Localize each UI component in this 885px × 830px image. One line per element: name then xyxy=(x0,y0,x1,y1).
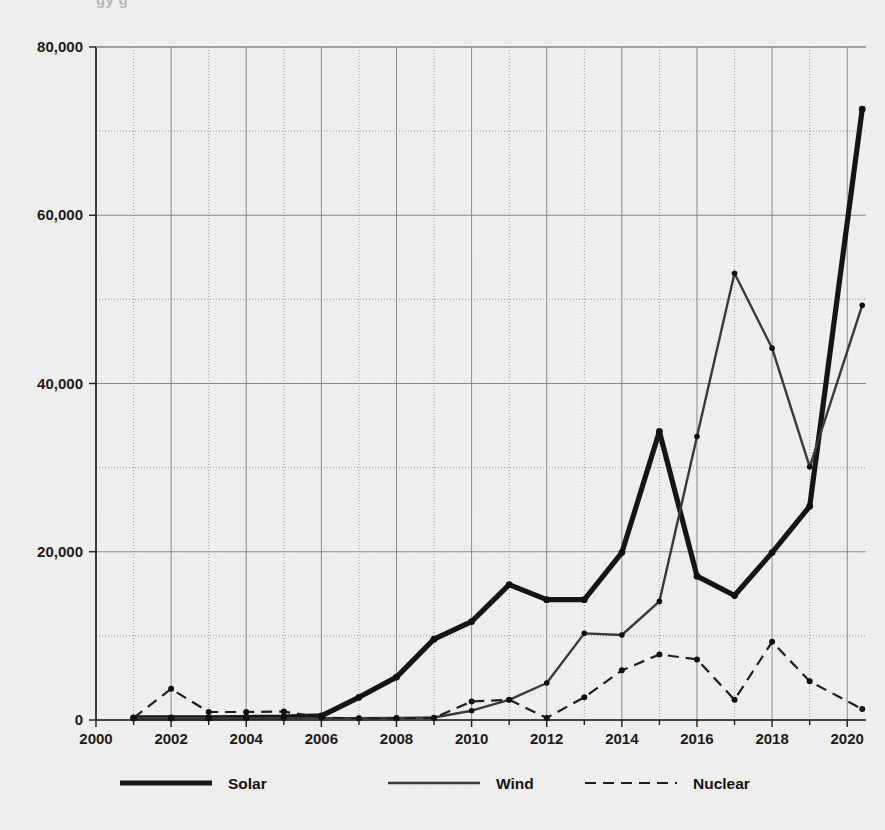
data-point-solar xyxy=(543,596,550,603)
x-tick-label: 2002 xyxy=(154,730,187,747)
data-point-solar xyxy=(806,503,813,510)
x-tick-label: 2016 xyxy=(680,730,713,747)
data-point-nuclear xyxy=(318,714,324,720)
y-tick-label: 0 xyxy=(75,711,83,728)
axis-tick-labels: 020,00040,00060,00080,000200020022004200… xyxy=(37,38,864,747)
chart-legend: SolarWindNuclear xyxy=(120,775,750,792)
y-tick-label: 60,000 xyxy=(37,206,83,223)
data-point-solar xyxy=(431,636,438,643)
data-point-solar xyxy=(506,581,513,588)
data-point-solar xyxy=(393,674,400,681)
data-point-wind xyxy=(619,632,625,638)
data-point-wind xyxy=(657,599,663,605)
data-point-wind xyxy=(581,631,587,637)
data-point-nuclear xyxy=(807,678,813,684)
data-point-nuclear xyxy=(581,694,587,700)
data-point-nuclear xyxy=(469,698,475,704)
data-point-wind xyxy=(694,434,700,440)
data-point-solar xyxy=(468,618,475,625)
data-point-solar xyxy=(356,694,363,701)
data-point-wind xyxy=(859,302,865,308)
data-point-nuclear xyxy=(506,697,512,703)
series-line-nuclear xyxy=(134,642,863,719)
data-series xyxy=(130,106,865,721)
x-tick-label: 2004 xyxy=(230,730,264,747)
data-point-wind xyxy=(281,716,287,722)
line-chart: 020,00040,00060,00080,000200020022004200… xyxy=(0,0,885,830)
data-point-nuclear xyxy=(544,715,550,721)
data-point-wind xyxy=(769,345,775,351)
y-tick-label: 20,000 xyxy=(37,543,83,560)
data-point-solar xyxy=(731,592,738,599)
data-point-solar xyxy=(581,596,588,603)
series-line-solar xyxy=(134,109,863,718)
data-point-nuclear xyxy=(393,715,399,721)
data-point-solar xyxy=(656,428,663,435)
data-point-wind xyxy=(206,716,212,722)
x-tick-label: 2018 xyxy=(755,730,788,747)
series-line-wind xyxy=(134,273,863,718)
data-point-nuclear xyxy=(131,715,137,721)
data-point-nuclear xyxy=(694,656,700,662)
data-point-solar xyxy=(694,573,701,580)
data-point-wind xyxy=(732,270,738,276)
axes xyxy=(89,47,866,727)
x-tick-label: 2012 xyxy=(530,730,563,747)
gridlines xyxy=(96,47,866,720)
x-tick-label: 2020 xyxy=(831,730,864,747)
chart-figure: gy g 020,00040,00060,00080,0002000200220… xyxy=(0,0,885,830)
y-tick-label: 80,000 xyxy=(37,38,83,55)
data-point-nuclear xyxy=(859,706,865,712)
x-tick-label: 2010 xyxy=(455,730,488,747)
data-point-nuclear xyxy=(656,651,662,657)
legend-label-solar: Solar xyxy=(228,775,267,792)
x-tick-label: 2000 xyxy=(79,730,112,747)
data-point-nuclear xyxy=(431,715,437,721)
data-point-wind xyxy=(168,716,174,722)
data-point-wind xyxy=(469,708,475,714)
data-point-nuclear xyxy=(281,709,287,715)
data-point-nuclear xyxy=(168,686,174,692)
data-point-wind xyxy=(243,716,249,722)
data-point-solar xyxy=(618,549,625,556)
legend-label-nuclear: Nuclear xyxy=(693,775,750,792)
data-point-solar xyxy=(859,106,866,113)
y-tick-label: 40,000 xyxy=(37,375,83,392)
data-point-nuclear xyxy=(619,667,625,673)
data-point-wind xyxy=(807,464,813,470)
data-point-solar xyxy=(769,549,776,556)
data-point-nuclear xyxy=(356,715,362,721)
data-point-nuclear xyxy=(243,709,249,715)
x-tick-label: 2006 xyxy=(305,730,338,747)
data-point-wind xyxy=(544,680,550,686)
data-point-nuclear xyxy=(732,697,738,703)
data-point-nuclear xyxy=(769,639,775,645)
x-tick-label: 2008 xyxy=(380,730,413,747)
legend-label-wind: Wind xyxy=(496,775,534,792)
data-point-nuclear xyxy=(206,709,212,715)
x-tick-label: 2014 xyxy=(605,730,639,747)
